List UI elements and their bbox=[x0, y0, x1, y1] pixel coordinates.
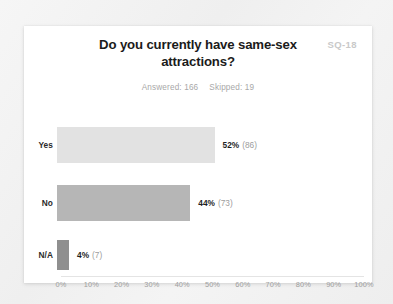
bar-track: 4%(7) bbox=[57, 240, 372, 270]
bar-value-label: 52%(86) bbox=[223, 140, 257, 150]
bar-percent: 44% bbox=[198, 198, 215, 208]
x-axis-ticks: 0%10%20%30%40%50%60%70%80%90%100% bbox=[61, 280, 364, 294]
page-title: Do you currently have same-sex attractio… bbox=[79, 36, 317, 71]
bar-category-label: Yes bbox=[24, 140, 57, 150]
bar-row: N/A4%(7) bbox=[24, 240, 372, 270]
x-axis-tick-label: 50% bbox=[205, 280, 220, 289]
x-axis-tick-label: 20% bbox=[114, 280, 129, 289]
bar-row: Yes52%(86) bbox=[24, 127, 372, 163]
x-axis-tick-label: 10% bbox=[84, 280, 99, 289]
response-summary: Answered: 166Skipped: 19 bbox=[24, 83, 372, 92]
x-axis-tick-label: 0% bbox=[56, 280, 67, 289]
x-axis-tick-label: 60% bbox=[235, 280, 250, 289]
skipped-count: Skipped: 19 bbox=[209, 83, 254, 92]
x-axis-tick-label: 80% bbox=[296, 280, 311, 289]
bar-count: (73) bbox=[218, 198, 233, 208]
bar-category-label: No bbox=[24, 198, 57, 208]
x-axis-tick-label: 40% bbox=[175, 280, 190, 289]
bar-segment[interactable] bbox=[57, 185, 190, 221]
x-axis-tick-label: 70% bbox=[266, 280, 281, 289]
x-axis-tick-label: 100% bbox=[354, 280, 373, 289]
bar-value-label: 44%(73) bbox=[198, 198, 232, 208]
survey-result-card: SQ-18 Do you currently have same-sex att… bbox=[24, 26, 372, 283]
bar-row: No44%(73) bbox=[24, 185, 372, 221]
bar-percent: 4% bbox=[77, 250, 89, 260]
bar-segment[interactable] bbox=[57, 127, 215, 163]
card-header: SQ-18 Do you currently have same-sex att… bbox=[24, 26, 372, 92]
bar-count: (86) bbox=[242, 140, 257, 150]
bar-track: 52%(86) bbox=[57, 127, 372, 163]
bar-count: (7) bbox=[92, 250, 102, 260]
answered-count: Answered: 166 bbox=[142, 83, 199, 92]
x-axis-tick-label: 90% bbox=[326, 280, 341, 289]
bar-category-label: N/A bbox=[24, 250, 57, 260]
bar-value-label: 4%(7) bbox=[77, 250, 102, 260]
bar-chart: Yes52%(86)No44%(73)N/A4%(7) 0%10%20%30%4… bbox=[24, 100, 372, 283]
bar-percent: 52% bbox=[223, 140, 240, 150]
question-code-badge: SQ-18 bbox=[328, 39, 357, 50]
x-axis-tick-label: 30% bbox=[144, 280, 159, 289]
x-axis-line bbox=[61, 276, 364, 277]
bar-segment[interactable] bbox=[57, 240, 69, 270]
bar-track: 44%(73) bbox=[57, 185, 372, 221]
